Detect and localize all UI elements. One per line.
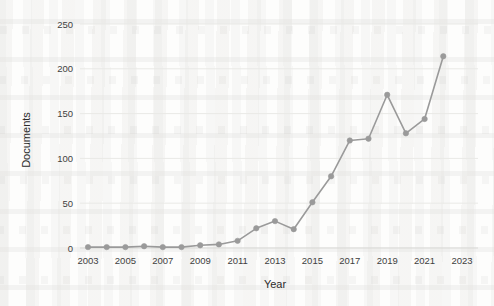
data-point-2009	[198, 243, 203, 248]
x-tick-label-2019: 2019	[377, 255, 398, 266]
x-tick-label-2023: 2023	[451, 255, 472, 266]
data-point-2022	[441, 54, 446, 59]
y-tick-label-150: 150	[57, 108, 73, 119]
x-tick-label-2015: 2015	[302, 255, 323, 266]
data-point-2011	[235, 238, 240, 243]
data-point-2008	[179, 244, 184, 249]
data-point-2018	[366, 136, 371, 141]
x-tick-label-2005: 2005	[115, 255, 136, 266]
data-point-2006	[141, 244, 146, 249]
data-point-2020	[403, 131, 408, 136]
data-point-2019	[385, 92, 390, 97]
x-tick-label-2009: 2009	[190, 255, 211, 266]
data-point-2014	[291, 226, 296, 231]
data-point-2017	[347, 138, 352, 143]
y-tick-label-50: 50	[62, 198, 73, 209]
data-point-markers	[85, 54, 446, 250]
data-point-2012	[254, 226, 259, 231]
y-tick-label-200: 200	[57, 63, 73, 74]
y-tick-label-0: 0	[68, 243, 73, 254]
data-point-2005	[123, 244, 128, 249]
data-point-2003	[85, 244, 90, 249]
chart-page: 050100150200250 200320052007200920112013…	[0, 0, 494, 306]
x-tick-label-2017: 2017	[339, 255, 360, 266]
gridline-group	[80, 24, 478, 248]
data-point-2016	[328, 174, 333, 179]
data-point-2013	[272, 218, 277, 223]
x-tick-label-2007: 2007	[152, 255, 173, 266]
x-tick-label-2013: 2013	[264, 255, 285, 266]
data-point-2015	[310, 200, 315, 205]
x-axis-title: Year	[264, 278, 287, 290]
y-axis-title: Documents	[20, 112, 32, 168]
data-point-2021	[422, 116, 427, 121]
x-tick-label-2003: 2003	[77, 255, 98, 266]
data-point-2010	[216, 242, 221, 247]
y-tick-label-250: 250	[57, 19, 73, 30]
x-tick-label-2021: 2021	[414, 255, 435, 266]
line-chart: 050100150200250 200320052007200920112013…	[0, 0, 494, 306]
x-tick-label-2011: 2011	[227, 255, 247, 266]
data-point-2004	[104, 244, 109, 249]
data-series-line	[88, 56, 443, 247]
y-tick-label-100: 100	[57, 153, 73, 164]
y-axis-tick-labels: 050100150200250	[57, 19, 73, 254]
data-point-2007	[160, 244, 165, 249]
x-axis-tick-labels: 2003200520072009201120132015201720192021…	[77, 255, 472, 266]
